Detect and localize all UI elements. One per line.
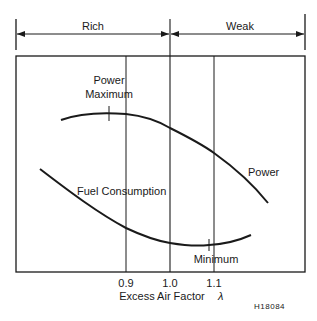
x-axis-label: Excess Air Factor [119,290,205,302]
fuel-consumption-curve [40,169,251,246]
x-tick-1-0: 1.0 [162,277,177,289]
x-tick-0-9: 0.9 [118,277,133,289]
figure-code: H18084 [254,302,285,311]
plot-frame [16,56,305,272]
weak-label: Weak [226,20,254,32]
power-curve-label: Power [248,166,280,178]
rich-label: Rich [82,20,104,32]
lambda-symbol: λ [217,290,223,302]
region-indicator: Rich Weak [16,14,305,272]
x-tick-1-1: 1.1 [206,277,221,289]
power-maximum-label-line1: Power [93,74,125,86]
fuel-minimum-label: Minimum [194,253,239,265]
excess-air-diagram: Rich Weak Power Maximum Power Fuel Consu… [0,0,317,321]
power-maximum-label-line2: Maximum [85,88,133,100]
fuel-consumption-label: Fuel Consumption [77,185,166,197]
